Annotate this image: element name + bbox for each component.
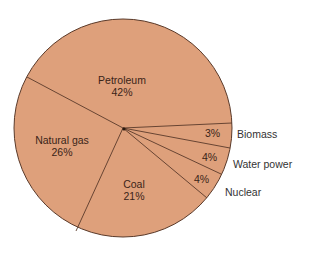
nuclear-legend: Nuclear <box>225 186 261 198</box>
petroleum-name: Petroleum <box>92 74 152 86</box>
water-power-legend: Water power <box>233 158 292 170</box>
coal-label: Coal 21% <box>114 178 154 202</box>
nuclear-pct: 4% <box>194 173 209 185</box>
petroleum-label: Petroleum 42% <box>92 74 152 98</box>
natural-gas-label: Natural gas 26% <box>30 134 94 158</box>
biomass-pct: 3% <box>205 127 220 139</box>
coal-name: Coal <box>114 178 154 190</box>
natural-gas-name: Natural gas <box>30 134 94 146</box>
petroleum-pct: 42% <box>92 86 152 98</box>
biomass-legend: Biomass <box>237 128 277 140</box>
natural-gas-pct: 26% <box>30 146 94 158</box>
coal-pct: 21% <box>114 190 154 202</box>
water-power-pct: 4% <box>202 151 217 163</box>
